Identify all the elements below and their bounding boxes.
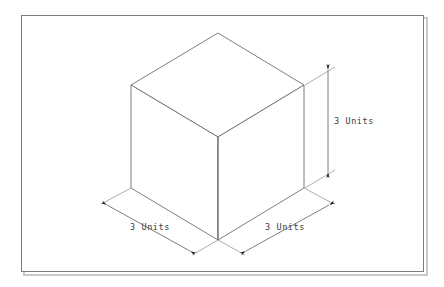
dimension-height-label: 3 Units: [334, 116, 374, 126]
drawing-canvas: 3 Units 3 Units 3 Units: [0, 0, 444, 287]
isometric-cube-drawing: 3 Units 3 Units 3 Units: [0, 0, 444, 287]
dimension-depth-label: 3 Units: [130, 222, 170, 232]
dimension-width-label: 3 Units: [265, 222, 305, 232]
